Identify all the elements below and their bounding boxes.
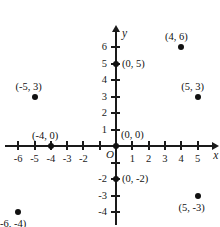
x-axis-tick [180, 141, 182, 150]
data-point-label: (0, 5) [122, 59, 145, 70]
x-axis-tick [82, 141, 84, 150]
y-axis-tick [111, 96, 120, 98]
coordinate-plane: x y O -6-5-4-3-212345654321-2-3-4 (4, 6)… [0, 0, 220, 227]
data-point [113, 61, 119, 67]
y-tick-label: 6 [89, 42, 107, 53]
x-axis-tick [131, 141, 133, 150]
y-tick-label: 5 [89, 59, 107, 70]
data-point [178, 44, 184, 50]
x-axis-tick [99, 141, 101, 150]
y-axis-tick [111, 195, 120, 197]
y-tick-label: 4 [89, 75, 107, 86]
x-tick-label: 5 [188, 154, 208, 165]
y-axis-arrow-icon [112, 25, 120, 32]
y-tick-label: -3 [89, 191, 107, 202]
x-tick-label: -2 [73, 154, 93, 165]
x-axis-tick [164, 141, 166, 150]
y-axis-label: y [122, 28, 127, 40]
x-axis-tick [17, 141, 19, 150]
data-point-label: (-6, -4) [0, 219, 26, 227]
x-axis-label: x [213, 150, 218, 162]
y-axis-tick [111, 79, 120, 81]
y-axis-tick [111, 112, 120, 114]
x-axis-tick [148, 141, 150, 150]
data-point-label: (0, -2) [122, 174, 148, 185]
data-point [15, 209, 21, 215]
data-point [32, 94, 38, 100]
y-axis-tick [111, 211, 120, 213]
y-axis-tick [111, 129, 120, 131]
y-tick-label: -2 [89, 174, 107, 185]
y-tick-label: 3 [89, 92, 107, 103]
y-tick-label: -4 [89, 207, 107, 218]
data-point [113, 176, 119, 182]
data-point [48, 143, 54, 149]
y-tick-label: 2 [89, 108, 107, 119]
y-axis-tick [111, 46, 120, 48]
data-point [195, 94, 201, 100]
x-axis-tick [197, 141, 199, 150]
data-point-label: (5, -3) [179, 203, 205, 214]
data-point [195, 193, 201, 199]
origin-letter-label: O [106, 149, 114, 160]
data-point-label: (5, 3) [181, 82, 204, 93]
x-axis-tick [34, 141, 36, 150]
data-point-label: (4, 6) [165, 32, 188, 43]
data-point-label: (-5, 3) [16, 82, 42, 93]
y-tick-label: 1 [89, 125, 107, 136]
x-axis-tick [66, 141, 68, 150]
data-point-label: (0, 0) [121, 130, 144, 141]
data-point-label: (-4, 0) [32, 131, 58, 142]
data-point [113, 143, 119, 149]
y-axis-tick [111, 162, 120, 164]
